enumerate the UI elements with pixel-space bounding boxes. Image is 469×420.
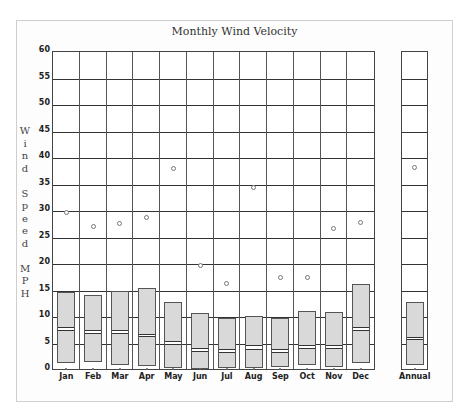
x-tick-label: Jan bbox=[51, 372, 81, 381]
x-tick-label: Oct bbox=[292, 372, 322, 381]
y-tick-label: 35 bbox=[26, 178, 50, 187]
horizontal-gridline bbox=[53, 291, 374, 292]
box bbox=[57, 292, 75, 364]
y-axis-label-letter: S bbox=[18, 188, 32, 201]
median-line bbox=[353, 327, 369, 331]
horizontal-gridline bbox=[402, 291, 427, 292]
max-point bbox=[251, 185, 256, 190]
median-line bbox=[326, 345, 342, 349]
horizontal-gridline bbox=[402, 132, 427, 133]
median-line bbox=[192, 348, 208, 352]
box bbox=[406, 302, 424, 365]
box bbox=[298, 311, 316, 365]
min-point bbox=[414, 368, 416, 370]
x-tick-label: Sep bbox=[265, 372, 295, 381]
box bbox=[271, 318, 289, 367]
chart-title: Monthly Wind Velocity bbox=[0, 25, 469, 38]
min-point bbox=[360, 368, 362, 370]
median-line bbox=[58, 327, 74, 331]
horizontal-gridline bbox=[53, 211, 374, 212]
vertical-gridline bbox=[213, 52, 214, 369]
y-axis-label-letter: i bbox=[18, 138, 32, 151]
max-point bbox=[144, 215, 149, 220]
max-point bbox=[91, 224, 96, 229]
max-point bbox=[198, 263, 203, 268]
max-point bbox=[412, 165, 417, 170]
y-tick-label: 25 bbox=[26, 231, 50, 240]
min-point bbox=[65, 368, 67, 370]
min-point bbox=[146, 368, 148, 370]
x-tick-label: Jul bbox=[212, 372, 242, 381]
median-line bbox=[246, 345, 262, 350]
min-point bbox=[279, 368, 281, 370]
horizontal-gridline bbox=[53, 132, 374, 133]
horizontal-gridline bbox=[53, 264, 374, 265]
max-point bbox=[171, 166, 176, 171]
box bbox=[164, 302, 182, 368]
y-tick-label: 15 bbox=[26, 284, 50, 293]
y-tick-label: 60 bbox=[26, 45, 50, 54]
median-line bbox=[299, 345, 315, 349]
median-line bbox=[85, 330, 101, 334]
vertical-gridline bbox=[106, 52, 107, 369]
x-tick-label: Aug bbox=[239, 372, 269, 381]
vertical-gridline bbox=[320, 52, 321, 369]
horizontal-gridline bbox=[53, 158, 374, 159]
vertical-gridline bbox=[346, 52, 347, 369]
horizontal-gridline bbox=[402, 264, 427, 265]
x-tick-label: Mar bbox=[105, 372, 135, 381]
horizontal-gridline bbox=[402, 79, 427, 80]
max-point bbox=[358, 220, 363, 225]
horizontal-gridline bbox=[53, 238, 374, 239]
annual-plot-area bbox=[401, 51, 428, 370]
vertical-gridline bbox=[186, 52, 187, 369]
horizontal-gridline bbox=[402, 185, 427, 186]
vertical-gridline bbox=[159, 52, 160, 369]
horizontal-gridline bbox=[53, 105, 374, 106]
y-tick-label: 55 bbox=[26, 72, 50, 81]
x-tick-label: May bbox=[158, 372, 188, 381]
y-tick-label: 50 bbox=[26, 98, 50, 107]
x-tick-label: Nov bbox=[319, 372, 349, 381]
y-tick-label: 45 bbox=[26, 125, 50, 134]
min-point bbox=[199, 368, 201, 370]
box bbox=[138, 288, 156, 366]
max-point bbox=[224, 281, 229, 286]
median-line bbox=[139, 334, 155, 337]
vertical-gridline bbox=[132, 52, 133, 369]
min-point bbox=[306, 368, 308, 370]
max-point bbox=[331, 226, 336, 231]
horizontal-gridline bbox=[53, 79, 374, 80]
y-tick-label: 5 bbox=[26, 337, 50, 346]
min-point bbox=[226, 368, 228, 370]
median-line bbox=[112, 330, 128, 334]
horizontal-gridline bbox=[402, 105, 427, 106]
vertical-gridline bbox=[239, 52, 240, 369]
y-tick-label: 40 bbox=[26, 151, 50, 160]
box bbox=[352, 284, 370, 363]
box bbox=[218, 318, 236, 368]
box bbox=[84, 295, 102, 362]
y-tick-label: 30 bbox=[26, 204, 50, 213]
box bbox=[111, 291, 129, 366]
box bbox=[191, 313, 209, 369]
min-point bbox=[92, 368, 94, 370]
median-line bbox=[165, 341, 181, 345]
box bbox=[325, 312, 343, 367]
median-line bbox=[272, 349, 288, 353]
vertical-gridline bbox=[293, 52, 294, 369]
median-line bbox=[407, 337, 423, 340]
min-point bbox=[119, 368, 121, 370]
vertical-gridline bbox=[79, 52, 80, 369]
y-axis-label-letter: e bbox=[18, 213, 32, 226]
max-point bbox=[278, 275, 283, 280]
horizontal-gridline bbox=[402, 158, 427, 159]
horizontal-gridline bbox=[402, 211, 427, 212]
vertical-gridline bbox=[266, 52, 267, 369]
max-point bbox=[305, 275, 310, 280]
min-point bbox=[333, 368, 335, 370]
box bbox=[245, 316, 263, 368]
max-point bbox=[117, 221, 122, 226]
monthly-plot-area bbox=[52, 51, 375, 370]
min-point bbox=[253, 368, 255, 370]
